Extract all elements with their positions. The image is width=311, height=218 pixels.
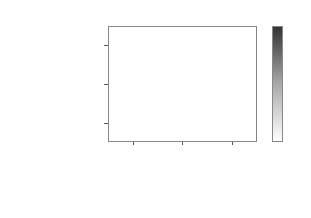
x-tick [182,142,183,145]
y-tick [104,84,108,85]
cell-0-1 [158,27,207,65]
colorbar [272,26,283,142]
cell-0-0 [109,27,158,65]
x-tick [232,142,233,145]
cell-2-1 [158,103,207,141]
cell-1-2 [207,65,256,103]
x-tick [133,142,134,145]
cell-2-2 [207,103,256,141]
cell-1-1 [158,65,207,103]
cell-1-0 [109,65,158,103]
confusion-matrix [108,26,257,142]
y-tick [104,123,108,124]
y-tick [104,45,108,46]
cell-0-2 [207,27,256,65]
cell-2-0 [109,103,158,141]
